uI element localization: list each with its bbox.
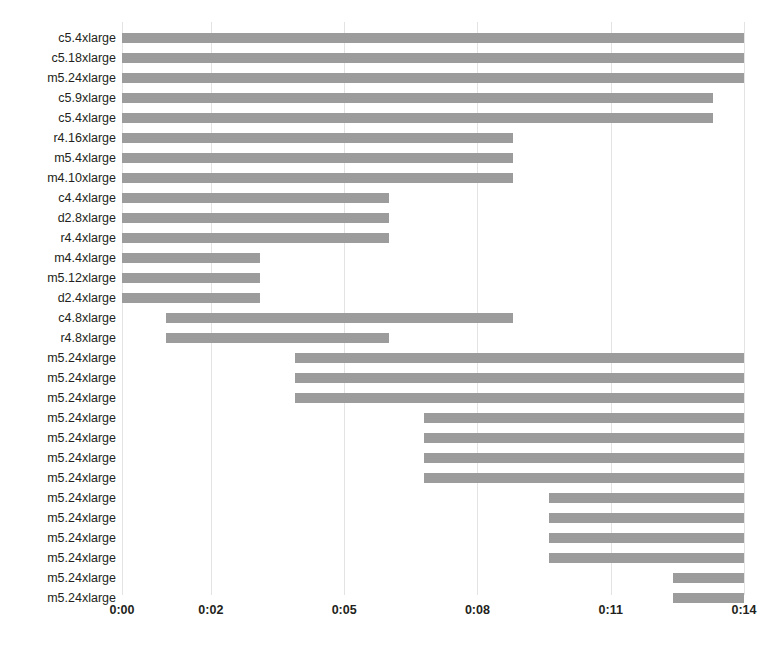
y-axis-label: d2.4xlarge [0, 291, 116, 305]
gridline-0-08 [477, 22, 478, 595]
bar[interactable] [549, 553, 744, 563]
y-axis-label: c4.8xlarge [0, 311, 116, 325]
y-axis-label: m5.24xlarge [0, 551, 116, 565]
bar[interactable] [122, 213, 389, 223]
y-axis-label: m5.24xlarge [0, 431, 116, 445]
y-axis-label: m5.24xlarge [0, 571, 116, 585]
y-axis-label: m5.24xlarge [0, 391, 116, 405]
bar[interactable] [549, 533, 744, 543]
x-axis-tick-labels: 0:000:020:050:080:110:14 [0, 603, 776, 625]
bar[interactable] [424, 433, 744, 443]
bar[interactable] [424, 453, 744, 463]
bar[interactable] [122, 233, 389, 243]
plot-area [122, 22, 744, 595]
y-axis-label: c5.4xlarge [0, 111, 116, 125]
bar[interactable] [122, 173, 513, 183]
bar[interactable] [673, 593, 744, 603]
gridline-0-00 [122, 22, 123, 595]
bar[interactable] [122, 133, 513, 143]
y-axis-label: m5.24xlarge [0, 451, 116, 465]
y-axis-label: m5.24xlarge [0, 71, 116, 85]
bar[interactable] [122, 153, 513, 163]
bar[interactable] [549, 493, 744, 503]
y-axis-label: m5.24xlarge [0, 471, 116, 485]
gridline-0-05 [344, 22, 345, 595]
gridline-0-14 [744, 22, 745, 595]
bar[interactable] [166, 313, 513, 323]
y-axis-category-labels: c5.4xlargec5.18xlargem5.24xlargec5.9xlar… [0, 22, 116, 595]
y-axis-label: r4.8xlarge [0, 331, 116, 345]
bar[interactable] [122, 33, 744, 43]
y-axis-label: m5.4xlarge [0, 151, 116, 165]
bar[interactable] [673, 573, 744, 583]
bar[interactable] [166, 333, 388, 343]
y-axis-label: c5.9xlarge [0, 91, 116, 105]
bar[interactable] [122, 253, 260, 263]
bar[interactable] [122, 273, 260, 283]
y-axis-label: m5.12xlarge [0, 271, 116, 285]
gantt-chart: c5.4xlargec5.18xlargem5.24xlargec5.9xlar… [0, 0, 776, 654]
x-axis-tick-label: 0:08 [465, 603, 490, 617]
bar[interactable] [295, 353, 744, 363]
bar[interactable] [122, 53, 744, 63]
bar[interactable] [122, 193, 389, 203]
y-axis-label: m4.10xlarge [0, 171, 116, 185]
bar[interactable] [295, 373, 744, 383]
bar[interactable] [295, 393, 744, 403]
bar[interactable] [122, 293, 260, 303]
y-axis-label: m4.4xlarge [0, 251, 116, 265]
y-axis-label: m5.24xlarge [0, 411, 116, 425]
bar[interactable] [549, 513, 744, 523]
y-axis-label: c4.4xlarge [0, 191, 116, 205]
x-axis-tick-label: 0:02 [198, 603, 223, 617]
y-axis-label: r4.16xlarge [0, 131, 116, 145]
y-axis-label: m5.24xlarge [0, 491, 116, 505]
y-axis-label: d2.8xlarge [0, 211, 116, 225]
gridline-0-02 [211, 22, 212, 595]
bar[interactable] [122, 73, 744, 83]
x-axis-tick-label: 0:05 [332, 603, 357, 617]
y-axis-label: m5.24xlarge [0, 511, 116, 525]
x-axis-tick-label: 0:11 [599, 603, 623, 617]
x-axis-tick-label: 0:14 [731, 603, 756, 617]
bar[interactable] [122, 113, 713, 123]
y-axis-label: r4.4xlarge [0, 231, 116, 245]
bar[interactable] [424, 413, 744, 423]
y-axis-label: c5.4xlarge [0, 31, 116, 45]
bar[interactable] [424, 473, 744, 483]
y-axis-label: m5.24xlarge [0, 531, 116, 545]
y-axis-label: m5.24xlarge [0, 371, 116, 385]
x-axis-tick-label: 0:00 [109, 603, 134, 617]
y-axis-label: m5.24xlarge [0, 351, 116, 365]
bar[interactable] [122, 93, 713, 103]
y-axis-label: c5.18xlarge [0, 51, 116, 65]
gridline-0-11 [611, 22, 612, 595]
